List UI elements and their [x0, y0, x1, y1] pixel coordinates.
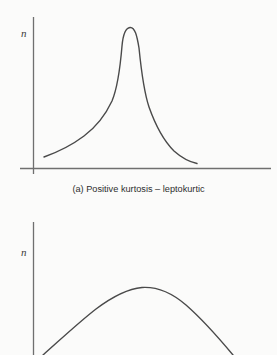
panel-caption-leptokurtic: (a) Positive kurtosis – leptokurtic: [0, 184, 277, 195]
chart-panel-leptokurtic: n (a) Positive kurtosis – leptokurtic: [0, 0, 277, 200]
platykurtic-plot: [0, 200, 277, 355]
chart-panel-platykurtic: n: [0, 200, 277, 355]
leptokurtic-curve: [44, 27, 197, 163]
figure-container: n (a) Positive kurtosis – leptokurtic n: [0, 0, 277, 355]
y-axis-label: n: [21, 28, 27, 39]
platykurtic-curve: [43, 287, 233, 355]
y-axis-label: n: [21, 247, 27, 258]
leptokurtic-plot: [0, 0, 277, 200]
